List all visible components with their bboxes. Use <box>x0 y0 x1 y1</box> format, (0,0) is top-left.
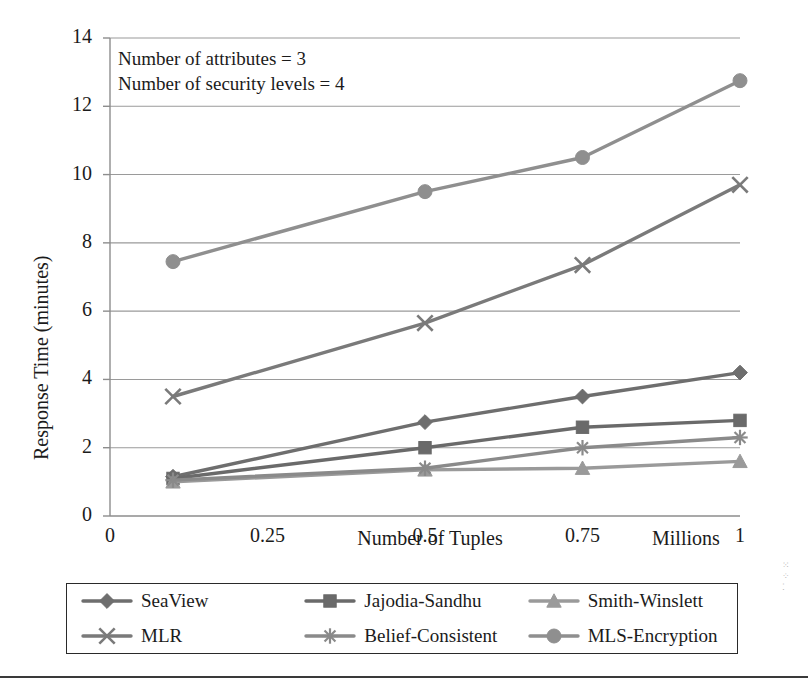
chart-annotation: Number of attributes = 3 Number of secur… <box>118 46 345 96</box>
legend-item-jajodia-sandhu[interactable]: Jajodia-Sandhu <box>290 590 513 612</box>
legend-label: Jajodia-Sandhu <box>364 590 481 612</box>
circle-marker-icon <box>528 627 580 645</box>
figure-container: 02468101214 00.250.50.751 Response Time … <box>0 0 808 685</box>
legend-item-smith-winslett[interactable]: Smith-Winslett <box>514 590 737 612</box>
series-mlr <box>165 177 747 404</box>
legend-item-mls-encryption[interactable]: MLS-Encryption <box>514 625 737 647</box>
data-point-marker <box>575 440 590 455</box>
x-axis-units-label: Millions <box>652 527 720 550</box>
data-point-marker <box>166 255 180 269</box>
legend-label: Belief-Consistent <box>364 625 497 647</box>
y-tick-label: 10 <box>58 162 92 185</box>
data-point-marker <box>733 74 747 88</box>
legend-label: SeaView <box>141 590 208 612</box>
legend-item-mlr[interactable]: MLR <box>67 625 290 647</box>
data-point-marker <box>575 257 590 272</box>
data-point-marker <box>575 389 590 404</box>
legend-label: MLS-Encryption <box>588 625 718 647</box>
series-jajodia-sandhu <box>167 414 746 484</box>
data-point-marker <box>418 415 433 430</box>
x-axis-title: Number of Tuples <box>280 527 580 550</box>
data-point-marker <box>419 442 431 454</box>
annotation-line-1: Number of attributes = 3 <box>118 46 345 71</box>
y-tick-label: 14 <box>58 25 92 48</box>
y-axis-title: Response Time (minutes) <box>30 256 53 460</box>
data-point-marker <box>418 185 432 199</box>
y-tick-label: 0 <box>58 503 92 526</box>
data-point-marker <box>732 430 747 445</box>
x-tick-label: 0 <box>70 524 150 547</box>
square-marker-icon <box>304 592 356 610</box>
y-tick-label: 4 <box>58 366 92 389</box>
legend-item-seaview[interactable]: SeaView <box>67 590 290 612</box>
data-point-marker <box>734 414 746 426</box>
series-line <box>173 185 740 397</box>
triangle-marker-icon <box>528 592 580 610</box>
data-point-marker <box>417 461 432 476</box>
data-point-marker <box>733 365 748 380</box>
legend-label: MLR <box>141 625 182 647</box>
y-tick-label: 6 <box>58 298 92 321</box>
y-tick-label: 8 <box>58 230 92 253</box>
y-tick-label: 2 <box>58 435 92 458</box>
star-marker-icon <box>304 627 356 645</box>
series-line <box>173 81 740 262</box>
data-point-marker <box>732 177 747 192</box>
series-mls-encryption <box>166 74 747 269</box>
y-tick-label: 12 <box>58 93 92 116</box>
annotation-line-2: Number of security levels = 4 <box>118 71 345 96</box>
legend-item-belief-consistent[interactable]: Belief-Consistent <box>290 625 513 647</box>
scan-artifact: ⁙⁘⁚ <box>782 560 790 593</box>
page-bottom-rule <box>0 676 808 678</box>
chart-legend: SeaViewJajodia-SandhuSmith-WinslettMLRBe… <box>66 583 738 654</box>
data-point-marker <box>165 472 180 487</box>
legend-label: Smith-Winslett <box>588 590 703 612</box>
data-point-marker <box>576 151 590 165</box>
data-point-marker <box>576 421 588 433</box>
cross-marker-icon <box>81 627 133 645</box>
diamond-marker-icon <box>81 592 133 610</box>
